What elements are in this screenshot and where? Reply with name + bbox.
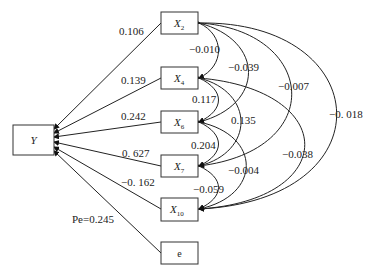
correlation-labels: −0.010 −0.039 −0.007 −0. 018 0.117 0.135… [189,43,363,195]
r-x6-x7: 0.204 [191,139,216,151]
node-x10: X10 [161,198,198,221]
r-x6-x10: −0.004 [228,164,259,176]
node-x6: X6 [161,111,198,133]
node-x10-subscript: 10 [177,210,185,218]
coef-x10: −0. 162 [121,176,155,188]
r-x4-x6: 0.117 [192,93,217,105]
node-x2: X2 [161,12,198,34]
r-x2-x7: −0.007 [278,80,309,92]
coef-x2: 0.106 [119,25,144,37]
node-x4: X4 [161,67,198,89]
node-x6-subscript: 6 [181,123,185,131]
r-x7-x10: −0.059 [193,183,224,195]
node-x2-subscript: 2 [181,24,185,32]
r-x2-x6: −0.039 [228,61,259,73]
path-e-y [54,151,161,253]
coef-x4: 0.139 [121,74,146,86]
r-x4-x10: −0.038 [282,148,313,160]
coef-e: Pe=0.245 [72,213,114,225]
node-x4-subscript: 4 [181,79,185,87]
path-diagram: Y X2 X4 X6 X7 X10 e 0.106 0.139 0.242 0.… [0,0,372,275]
node-x7: X7 [161,155,198,177]
node-e-label: e [177,248,182,259]
coef-x6: 0.242 [121,110,146,122]
coef-x7: 0. 627 [122,147,150,159]
node-y: Y [13,125,54,155]
r-x2-x10: −0. 018 [329,108,363,120]
node-e: e [161,242,198,264]
r-x4-x7: 0.135 [231,114,256,126]
node-x7-subscript: 7 [181,167,185,175]
r-x2-x4: −0.010 [189,43,220,55]
